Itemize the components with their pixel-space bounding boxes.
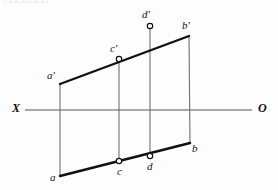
projection-drawing-canvas xyxy=(0,0,278,190)
axis-label-o: O xyxy=(258,102,267,114)
point-label-c: c xyxy=(117,166,122,177)
line-a-b xyxy=(60,143,190,176)
projector-line-b xyxy=(189,36,190,143)
projector-lines-group xyxy=(60,26,190,176)
point-label-b: b xyxy=(192,143,198,154)
marker-c xyxy=(116,158,121,163)
point-label-a-prime: a' xyxy=(47,70,55,81)
marker-c-prime xyxy=(116,56,121,61)
marker-d-prime xyxy=(147,23,152,28)
point-label-a: a xyxy=(50,172,56,183)
marker-d xyxy=(147,153,152,158)
point-label-c-prime: c' xyxy=(110,43,117,54)
point-label-d: d xyxy=(147,161,153,172)
point-label-d-prime: d' xyxy=(142,9,150,20)
line-a-prime-b-prime xyxy=(60,36,189,84)
object-lines-group xyxy=(60,36,190,176)
figure-container: □□□□□□□ X O a' b' c' d' a b c xyxy=(0,0,278,190)
axis-label-x: X xyxy=(12,102,20,114)
point-label-b-prime: b' xyxy=(182,20,190,31)
point-markers-group xyxy=(116,23,152,163)
